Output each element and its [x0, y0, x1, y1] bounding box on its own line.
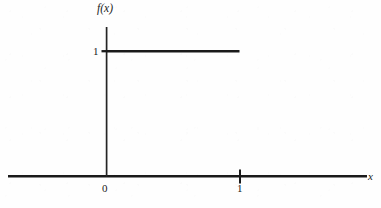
x-axis-label: x: [368, 171, 373, 182]
y-tick-label-1: 1: [93, 46, 99, 57]
plot-canvas: [0, 0, 381, 208]
x-tick-label-1: 1: [237, 183, 243, 194]
x-tick-label-0: 0: [102, 183, 108, 194]
uniform-pdf-figure: f(x) x 1 0 1: [0, 0, 381, 208]
y-axis-label: f(x): [97, 3, 113, 15]
